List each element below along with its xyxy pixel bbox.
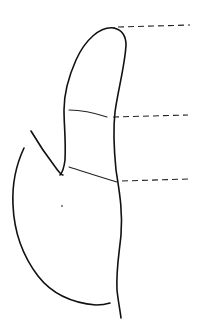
leader-line-bottom	[122, 179, 188, 181]
speck-mark	[61, 205, 63, 207]
notch-curve	[31, 131, 63, 175]
upper-divider-line	[69, 110, 107, 117]
upper-lobe-left-edge	[60, 28, 114, 175]
leader-line-top	[118, 25, 190, 27]
lower-divider-line	[69, 167, 117, 182]
diagram-canvas	[0, 0, 199, 325]
leader-line-middle	[113, 115, 188, 117]
line-drawing	[0, 0, 199, 325]
upper-lobe-right-edge	[114, 28, 126, 318]
